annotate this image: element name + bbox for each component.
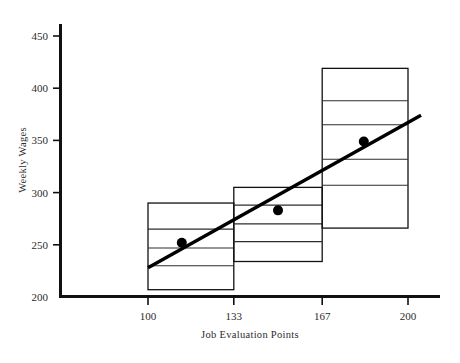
y-tick-label: 450 (32, 30, 49, 42)
x-axis-title: Job Evaluation Points (201, 329, 299, 340)
x-tick-label: 133 (226, 310, 243, 322)
x-tick-label: 200 (400, 310, 417, 322)
x-tick-label: 167 (314, 310, 331, 322)
y-axis-title: Weekly Wages (17, 127, 28, 193)
chart-figure: 200250300350400450 100133167200 Weekly W… (0, 0, 460, 363)
x-tick-label: 100 (140, 310, 157, 322)
y-tick-label: 350 (32, 134, 49, 146)
y-tick-label: 400 (32, 82, 49, 94)
data-point (359, 136, 369, 146)
y-tick-label: 200 (32, 291, 49, 303)
y-tick-label: 300 (32, 187, 49, 199)
y-tick-label: 250 (32, 239, 49, 251)
data-point (273, 205, 283, 215)
wage-structure-chart: 200250300350400450 100133167200 Weekly W… (0, 0, 460, 363)
data-point (177, 238, 187, 248)
chart-background (0, 0, 460, 363)
